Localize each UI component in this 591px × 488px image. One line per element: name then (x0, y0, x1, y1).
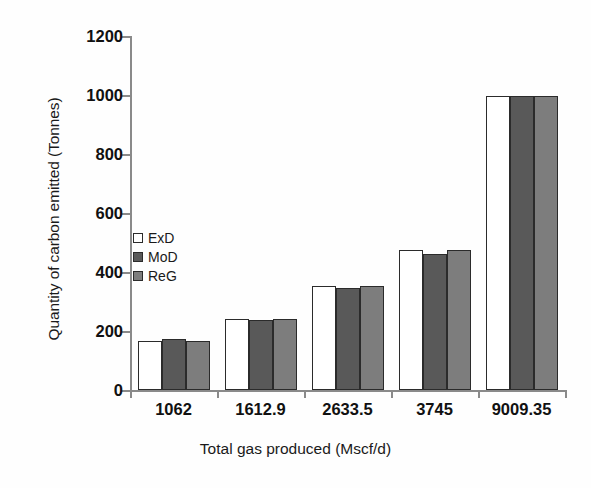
legend-label: ExD (148, 230, 174, 246)
x-axis-tick-label: 9009.35 (492, 400, 552, 419)
x-axis-tick-label: 3745 (416, 400, 453, 419)
legend-label: ReG (148, 268, 177, 284)
bar-mod[interactable] (423, 254, 447, 390)
bars-layer (130, 36, 565, 390)
x-axis-tick-mark (391, 390, 393, 398)
legend-item-exd[interactable]: ExD (133, 228, 178, 247)
chart-legend: ExDMoDReG (133, 228, 178, 285)
bar-mod[interactable] (336, 288, 360, 390)
x-axis-line (130, 390, 565, 392)
y-axis-tick-label: 600 (95, 204, 123, 223)
legend-swatch-icon (133, 233, 143, 243)
y-axis-tick-label: 1000 (86, 86, 123, 105)
legend-swatch-icon (133, 252, 143, 262)
x-axis-tick-mark (130, 390, 132, 398)
bar-group (138, 36, 210, 390)
bar-group (312, 36, 384, 390)
y-axis-tick-mark (122, 331, 130, 333)
x-axis-tick-label: 1612.9 (235, 400, 285, 419)
bar-reg[interactable] (273, 319, 297, 390)
y-axis-tick-mark (122, 272, 130, 274)
bar-group (486, 36, 558, 390)
x-axis-tick-label: 1062 (155, 400, 192, 419)
y-axis-tick-label: 0 (114, 381, 123, 400)
y-axis-tick-mark (122, 95, 130, 97)
x-axis-tick-mark (217, 390, 219, 398)
bar-exd[interactable] (486, 96, 510, 390)
x-axis-title: Total gas produced (Mscf/d) (0, 440, 591, 458)
y-axis-tick-label: 1200 (86, 27, 123, 46)
bar-exd[interactable] (138, 341, 162, 390)
bar-exd[interactable] (225, 319, 249, 390)
bar-exd[interactable] (312, 286, 336, 390)
x-axis-tick-mark (565, 390, 567, 398)
bar-reg[interactable] (534, 96, 558, 390)
bar-mod[interactable] (162, 339, 186, 390)
y-axis-tick-mark (122, 36, 130, 38)
legend-swatch-icon (133, 271, 143, 281)
legend-label: MoD (148, 249, 178, 265)
bar-chart-figure: Quantity of carbon emitted (Tonnes) 0200… (0, 0, 591, 488)
plot-area: 020040060080010001200 (130, 36, 565, 390)
y-axis-tick-mark (122, 154, 130, 156)
x-axis-tick-mark (304, 390, 306, 398)
bar-exd[interactable] (399, 250, 423, 390)
legend-item-reg[interactable]: ReG (133, 266, 178, 285)
legend-item-mod[interactable]: MoD (133, 247, 178, 266)
bar-reg[interactable] (360, 286, 384, 390)
y-axis-tick-label: 200 (95, 322, 123, 341)
x-axis-tick-mark (478, 390, 480, 398)
y-axis-tick-mark (122, 390, 130, 392)
bar-mod[interactable] (249, 320, 273, 390)
bar-reg[interactable] (447, 250, 471, 390)
bar-mod[interactable] (510, 96, 534, 390)
y-axis-tick-label: 800 (95, 145, 123, 164)
bar-group (225, 36, 297, 390)
bar-reg[interactable] (186, 341, 210, 390)
x-axis-tick-label: 2633.5 (322, 400, 372, 419)
y-axis-title: Quantity of carbon emitted (Tonnes) (45, 49, 63, 389)
bar-group (399, 36, 471, 390)
y-axis-tick-label: 400 (95, 263, 123, 282)
y-axis-tick-mark (122, 213, 130, 215)
